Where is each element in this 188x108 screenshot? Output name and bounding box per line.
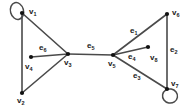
vertex-label-sub-v6: 6	[176, 12, 179, 18]
edge-label-e1: e1	[130, 27, 138, 35]
graph-vertex-v3	[66, 52, 70, 56]
graph-vertex-v7	[165, 87, 169, 91]
vertex-label-sub-v4: 4	[29, 66, 32, 72]
edge-label-e4: e4	[128, 53, 136, 61]
self-loop-v7	[161, 88, 178, 104]
vertex-label-v6: v6	[172, 9, 180, 17]
vertices-group	[20, 11, 169, 95]
graph-vertex-v2	[20, 91, 24, 95]
vertex-label-sub-v8: 8	[154, 57, 157, 63]
edge-label-e3: e3	[133, 72, 141, 80]
edge-label-sub-e3: 3	[137, 75, 140, 81]
vertex-label-v5: v5	[108, 60, 116, 68]
graph-vertex-v1	[20, 11, 24, 15]
self-loop-v1	[9, 1, 26, 21]
graph-canvas	[0, 0, 188, 108]
graph-edge-e6	[31, 54, 68, 57]
edge-label-sub-e2: 2	[174, 49, 177, 55]
graph-diagram: v1v2v3v4v5v6v7v8e1e2e3e4e5e6	[0, 0, 188, 108]
graph-edge-e5	[68, 54, 113, 55]
edge-label-e6: e6	[39, 44, 47, 52]
edge-label-e5: e5	[87, 42, 95, 50]
graph-edge-e9	[22, 54, 68, 93]
vertex-label-sub-v7: 7	[175, 83, 178, 89]
graph-vertex-v4	[29, 55, 33, 59]
vertex-label-sub-v3: 3	[68, 62, 71, 68]
edge-label-e2: e2	[170, 46, 178, 54]
edge-label-sub-e1: 1	[134, 30, 137, 36]
graph-vertex-v6	[165, 12, 169, 16]
edge-label-sub-e5: 5	[91, 45, 94, 51]
vertex-label-v2: v2	[17, 97, 25, 105]
vertex-label-v1: v1	[29, 8, 37, 16]
edge-label-sub-e6: 6	[43, 47, 46, 53]
edges-group	[22, 13, 167, 93]
graph-vertex-v8	[146, 45, 150, 49]
vertex-label-v7: v7	[171, 80, 179, 88]
vertex-label-v4: v4	[25, 63, 33, 71]
vertex-label-v8: v8	[150, 54, 158, 62]
vertex-label-v3: v3	[64, 59, 72, 67]
vertex-label-sub-v1: 1	[33, 11, 36, 17]
vertex-label-sub-v5: 5	[112, 63, 115, 69]
graph-vertex-v5	[111, 53, 115, 57]
vertex-label-sub-v2: 2	[21, 100, 24, 106]
edge-label-sub-e4: 4	[132, 56, 135, 62]
